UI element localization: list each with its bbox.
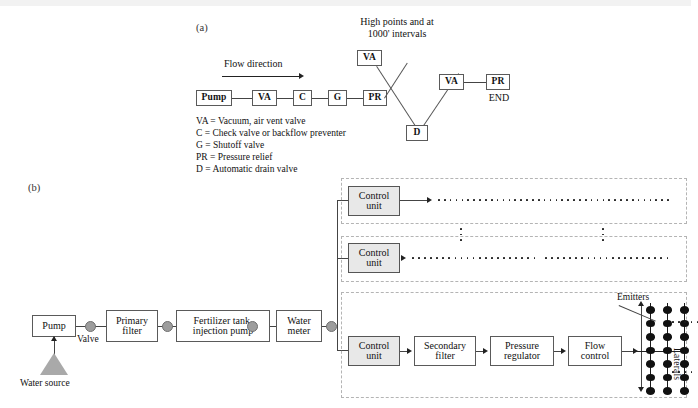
zone-1-emitter-dots bbox=[438, 199, 669, 201]
flow-direction-arrowhead-icon bbox=[299, 73, 304, 79]
link-va-pr-end bbox=[464, 82, 486, 83]
link-va-c bbox=[277, 98, 293, 99]
zone-1-arrowhead-icon bbox=[427, 197, 432, 203]
legend-item-c: C = Check valve or backflow preventer bbox=[196, 128, 346, 140]
box-pump: Pump bbox=[32, 315, 76, 337]
zone-2-arrowhead-icon bbox=[401, 255, 406, 261]
lateral-continuation-dots-upper bbox=[672, 321, 698, 323]
emitter-icon bbox=[646, 374, 655, 382]
valve-icon-3 bbox=[247, 321, 258, 332]
zone-3-pressure-regulator: Pressure regulator bbox=[490, 336, 554, 366]
legend-item-va: VA = Vacuum, air vent valve bbox=[196, 116, 306, 128]
emitter-icon bbox=[663, 360, 672, 368]
zone-3-flow-control: Flow control bbox=[568, 336, 622, 366]
panel-a-heading-line2: 1000' intervals bbox=[332, 28, 462, 41]
legend-item-g: G = Shutoff valve bbox=[196, 140, 264, 152]
valve-icon-1 bbox=[85, 321, 96, 332]
end-label: END bbox=[486, 92, 512, 105]
node-pump: Pump bbox=[196, 90, 232, 106]
node-va-1: VA bbox=[252, 90, 277, 106]
box-fertilizer-tank-line2: injection pump bbox=[193, 326, 253, 337]
zone-2-control-unit: Control unit bbox=[348, 243, 400, 273]
emitters-label: Emitters bbox=[617, 292, 649, 304]
emitter-icon bbox=[663, 333, 672, 341]
emitter-icon bbox=[663, 387, 672, 395]
link-pump-va bbox=[232, 98, 252, 99]
emitter-icon bbox=[646, 387, 655, 395]
flow-direction-arrow-shaft bbox=[222, 76, 300, 77]
zone-3-control-unit-line2: unit bbox=[366, 351, 382, 362]
zone-manifold-vertical bbox=[337, 200, 338, 326]
lateral-extent-arrowhead-bottom-icon bbox=[638, 387, 644, 392]
zone-1-lateral-line bbox=[400, 200, 428, 201]
zone-3-secondary-filter-line2: filter bbox=[435, 351, 454, 362]
legend-item-d: D = Automatic drain valve bbox=[196, 164, 297, 176]
zone-3-arrowhead-2-icon bbox=[483, 348, 488, 354]
node-c: C bbox=[293, 90, 312, 106]
emitter-icon bbox=[646, 306, 655, 314]
node-g: G bbox=[328, 90, 347, 106]
flow-direction-label: Flow direction bbox=[224, 58, 283, 71]
box-pump-label: Pump bbox=[42, 321, 65, 332]
zone-3-flow-control-line2: control bbox=[581, 351, 609, 362]
laterals-label: Laterals bbox=[672, 348, 682, 380]
zone-3-control-unit: Control unit bbox=[348, 336, 400, 366]
box-primary-filter-line2: filter bbox=[122, 326, 141, 337]
zone-2-control-unit-line2: unit bbox=[366, 258, 382, 269]
zone-3-secondary-filter: Secondary filter bbox=[414, 336, 476, 366]
zone-1-control-unit-line2: unit bbox=[366, 201, 382, 212]
link-g-pr bbox=[347, 98, 363, 99]
panel-a-heading-line1: High points and at bbox=[332, 16, 462, 29]
node-va-high-point: VA bbox=[357, 50, 382, 66]
valve-label: Valve bbox=[77, 334, 99, 346]
zone-3-arrowhead-3-icon bbox=[561, 348, 566, 354]
profile-rise-to-high-point bbox=[384, 63, 408, 99]
emitter-icon bbox=[646, 360, 655, 368]
emitter-icon bbox=[646, 347, 655, 355]
node-pr-end: PR bbox=[486, 74, 510, 90]
panel-a-label: (a) bbox=[196, 22, 208, 33]
box-primary-filter: Primary filter bbox=[106, 310, 158, 342]
node-va-end: VA bbox=[439, 74, 464, 90]
emitter-icon bbox=[680, 387, 689, 395]
emitter-icon bbox=[646, 333, 655, 341]
suction-arrowhead-icon bbox=[51, 336, 57, 341]
water-source-label: Water source bbox=[20, 378, 70, 390]
emitter-icon bbox=[663, 374, 672, 382]
zone-2-emitter-dots-left bbox=[412, 257, 535, 259]
water-source-icon bbox=[40, 353, 68, 375]
page-top-edge bbox=[0, 0, 691, 6]
lateral-extent-arrow-shaft bbox=[641, 306, 642, 388]
emitter-icon bbox=[663, 347, 672, 355]
emitter-icon bbox=[663, 320, 672, 328]
zone-1-control-unit: Control unit bbox=[348, 186, 400, 216]
emitter-icon bbox=[680, 306, 689, 314]
zone-manifold-vertical-lower bbox=[337, 326, 338, 350]
node-d-low-point: D bbox=[406, 125, 428, 141]
zone-2-emitter-dots-right bbox=[545, 257, 668, 259]
box-water-meter-line2: meter bbox=[288, 326, 311, 337]
zone-3-arrowhead-1-icon bbox=[407, 348, 412, 354]
box-water-meter: Water meter bbox=[276, 310, 322, 342]
link-c-g bbox=[312, 98, 328, 99]
legend-item-pr: PR = Pressure relief bbox=[196, 152, 272, 164]
valve-icon-2 bbox=[162, 321, 173, 332]
emitter-icon bbox=[663, 306, 672, 314]
emitter-icon bbox=[680, 333, 689, 341]
panel-b-label: (b) bbox=[28, 182, 40, 193]
valve-icon-4 bbox=[326, 321, 337, 332]
zone-3-pressure-regulator-line2: regulator bbox=[504, 351, 540, 362]
